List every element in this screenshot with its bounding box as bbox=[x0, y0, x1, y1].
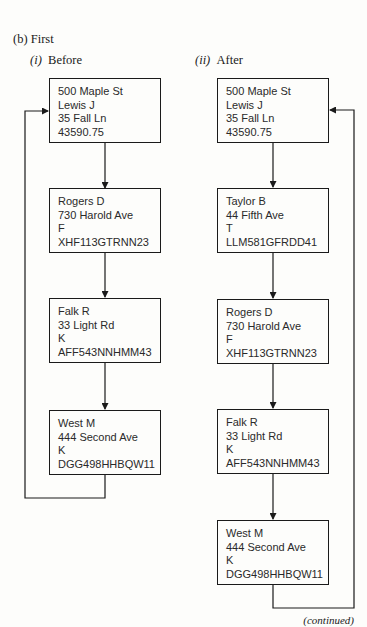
after-node-2: Taylor B 44 Fifth Ave T LLM581GFRDD41 bbox=[217, 188, 329, 253]
node-field: AFF543NNHMM43 bbox=[58, 346, 160, 360]
node-field: Rogers D bbox=[58, 195, 160, 209]
node-field: K bbox=[58, 444, 160, 458]
node-field: West M bbox=[226, 527, 328, 541]
after-node-1: 500 Maple St Lewis J 35 Fall Ln 43590.75 bbox=[217, 78, 329, 143]
after-node-5: West M 444 Second Ave K DGG498HHBQW11 bbox=[217, 520, 329, 585]
node-field: 730 Harold Ave bbox=[58, 209, 160, 223]
node-field: K bbox=[226, 554, 328, 568]
node-field: 43590.75 bbox=[226, 126, 328, 140]
node-field: AFF543NNHMM43 bbox=[226, 457, 328, 471]
continued-note: (continued) bbox=[303, 614, 354, 626]
node-field: 35 Fall Ln bbox=[58, 112, 160, 126]
node-field: 500 Maple St bbox=[226, 85, 328, 99]
node-field: 500 Maple St bbox=[58, 85, 160, 99]
node-field: West M bbox=[58, 417, 160, 431]
node-field: Falk R bbox=[226, 416, 328, 430]
node-field: K bbox=[226, 443, 328, 457]
node-field: Lewis J bbox=[58, 99, 160, 113]
node-field: XHF113GTRNN23 bbox=[226, 347, 328, 361]
node-field: 730 Harold Ave bbox=[226, 320, 328, 334]
node-field: 444 Second Ave bbox=[226, 541, 328, 555]
node-field: 44 Fifth Ave bbox=[226, 209, 328, 223]
node-field: Lewis J bbox=[226, 99, 328, 113]
node-field: XHF113GTRNN23 bbox=[58, 236, 160, 250]
node-field: F bbox=[58, 222, 160, 236]
before-node-4: West M 444 Second Ave K DGG498HHBQW11 bbox=[49, 410, 161, 475]
node-field: DGG498HHBQW11 bbox=[58, 458, 160, 472]
node-field: 444 Second Ave bbox=[58, 431, 160, 445]
node-field: 33 Light Rd bbox=[226, 430, 328, 444]
before-node-3: Falk R 33 Light Rd K AFF543NNHMM43 bbox=[49, 298, 161, 363]
node-field: T bbox=[226, 222, 328, 236]
after-node-3: Rogers D 730 Harold Ave F XHF113GTRNN23 bbox=[217, 299, 329, 364]
after-node-4: Falk R 33 Light Rd K AFF543NNHMM43 bbox=[217, 409, 329, 474]
node-field: DGG498HHBQW11 bbox=[226, 568, 328, 582]
node-field: F bbox=[226, 333, 328, 347]
node-field: Taylor B bbox=[226, 195, 328, 209]
node-field: 33 Light Rd bbox=[58, 319, 160, 333]
node-field: 43590.75 bbox=[58, 126, 160, 140]
node-field: K bbox=[58, 332, 160, 346]
before-node-1: 500 Maple St Lewis J 35 Fall Ln 43590.75 bbox=[49, 78, 161, 143]
node-field: Falk R bbox=[58, 305, 160, 319]
before-node-2: Rogers D 730 Harold Ave F XHF113GTRNN23 bbox=[49, 188, 161, 253]
node-field: Rogers D bbox=[226, 306, 328, 320]
node-field: 35 Fall Ln bbox=[226, 112, 328, 126]
node-field: LLM581GFRDD41 bbox=[226, 236, 328, 250]
